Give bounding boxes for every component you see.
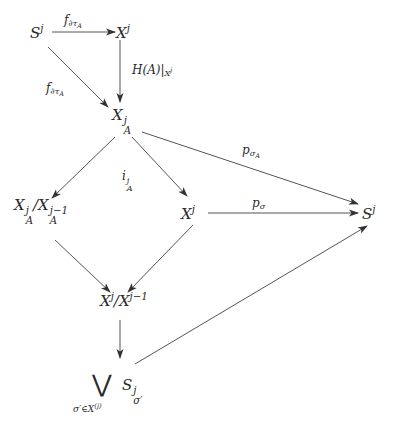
wedge-sum-index: σ′∈X(j) (73, 402, 102, 414)
arrow-S-to-XA (48, 47, 108, 107)
label-H-restrict: H(A)|Xj (132, 64, 172, 78)
label-p-sigmaA: pσA (242, 144, 260, 160)
label-f-diag: f∂τA (46, 82, 64, 98)
node-X-mid: Xj (181, 205, 195, 222)
arrow-wedge-to-Sright (135, 226, 367, 364)
arrow-XA-to-Xmid (132, 137, 187, 196)
arrow-Xmid-to-quot (128, 225, 193, 292)
arrow-XA-to-quotA (52, 137, 115, 198)
node-S-top: Sj (30, 24, 43, 41)
arrow-XA-to-Sright (142, 132, 358, 204)
node-X-top: Xj (116, 24, 130, 41)
node-quotient-A: XjA/Xj−1A (14, 198, 68, 227)
label-p-sigma: pσ (252, 197, 265, 211)
node-XA: XjA (112, 108, 131, 137)
label-i-A: ijA (122, 170, 133, 193)
wedge-sum-term: Sjσ′ (122, 378, 143, 407)
node-quotient: Xj/Xj−1 (100, 292, 148, 309)
arrow-quotA-to-quot (55, 240, 110, 292)
wedge-sum-symbol: ⋁ (92, 372, 112, 396)
node-S-right: Sj (362, 205, 375, 222)
commutative-diagram: Sj Xj XjA XjA/Xj−1A Xj Sj Xj/Xj−1 ⋁ σ′∈X… (0, 0, 397, 427)
label-f-top: f∂τA (64, 14, 82, 30)
